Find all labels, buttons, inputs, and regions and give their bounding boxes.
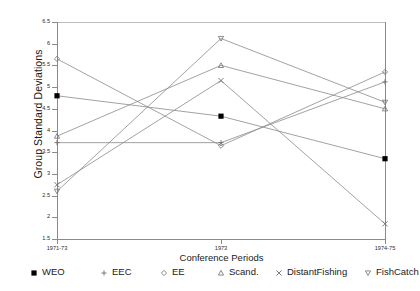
legend-entry-ee[interactable]: EE	[158, 265, 185, 277]
data-point-diamond	[161, 270, 166, 275]
data-point-filled-square	[218, 114, 223, 119]
series-line-scand.	[57, 65, 385, 136]
data-point-filled-square	[54, 93, 59, 98]
y-axis-title: Group Standard Deviations	[32, 14, 44, 214]
legend-entry-fishcatch[interactable]: FishCatch	[362, 265, 419, 277]
series-line-weo	[57, 96, 385, 159]
data-point-x-cross	[276, 270, 281, 275]
x-tick-mark	[385, 239, 386, 244]
data-point-filled-square	[31, 270, 36, 275]
legend-marker-filled-square-icon	[28, 265, 40, 277]
y-tick-label: 6.5	[12, 19, 50, 25]
x-tick-label: 1974-75	[350, 246, 420, 252]
legend-entry-distantfishing[interactable]: DistantFishing	[273, 265, 347, 277]
legend-marker-plus-icon	[98, 265, 110, 277]
y-tick-label: 2.5	[12, 193, 50, 199]
data-point-plus	[382, 79, 387, 84]
legend-label: FishCatch	[376, 266, 419, 277]
chart-legend: WEOEECEEScand.DistantFishingFishCatch	[10, 264, 408, 280]
data-point-x-cross	[54, 182, 59, 187]
y-tick-label: 3.5	[12, 149, 50, 155]
legend-entry-eec[interactable]: EEC	[98, 265, 132, 277]
y-tick-label: 2	[12, 214, 50, 220]
y-tick-label: 1.5	[12, 236, 50, 242]
data-point-x-cross	[218, 78, 223, 83]
data-point-plus	[101, 270, 106, 275]
y-tick-label: 4	[12, 128, 50, 134]
x-tick-label: 1971-73	[22, 246, 92, 252]
legend-marker-triangle-up-icon	[215, 265, 227, 277]
y-tick-label: 5	[12, 84, 50, 90]
plot-frame-right	[385, 22, 386, 240]
legend-label: DistantFishing	[287, 266, 347, 277]
data-point-filled-square	[382, 156, 387, 161]
legend-label: WEO	[42, 266, 65, 277]
x-axis-title: Conference Periods	[57, 252, 386, 263]
y-tick-label: 3	[12, 171, 50, 177]
data-point-plus	[54, 140, 59, 145]
y-tick-label: 5.5	[12, 62, 50, 68]
series-svg	[57, 22, 385, 239]
data-point-triangle-up	[218, 270, 223, 275]
legend-marker-triangle-down-icon	[362, 265, 374, 277]
legend-label: EEC	[112, 266, 132, 277]
data-point-triangle-down	[54, 189, 59, 194]
legend-entry-weo[interactable]: WEO	[28, 265, 65, 277]
legend-label: Scand.	[229, 266, 259, 277]
x-tick-mark	[221, 239, 222, 244]
y-tick-label: 4.5	[12, 106, 50, 112]
x-tick-mark	[57, 239, 58, 244]
series-line-eec	[57, 82, 385, 143]
legend-marker-diamond-icon	[158, 265, 170, 277]
legend-marker-x-cross-icon	[273, 265, 285, 277]
x-tick-label: 1973	[186, 246, 256, 252]
legend-entry-scand-[interactable]: Scand.	[215, 265, 259, 277]
data-point-triangle-down	[365, 271, 370, 276]
legend-label: EE	[172, 266, 185, 277]
plot-area	[57, 22, 385, 239]
y-tick-label: 6	[12, 41, 50, 47]
